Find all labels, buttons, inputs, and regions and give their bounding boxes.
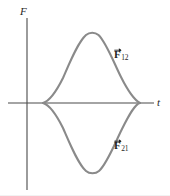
plot-canvas (0, 0, 170, 196)
figure-bottom-edge (0, 195, 170, 196)
vector-arrow-icon (114, 134, 122, 139)
force-vs-time-figure: F t F12 F21 (0, 0, 170, 196)
curve-force-21 (43, 103, 140, 173)
force-label-f12: F12 (114, 49, 128, 60)
curve-force-12 (43, 33, 140, 103)
force-subscript-f12: 12 (121, 53, 128, 62)
force-subscript-f21: 21 (121, 144, 128, 153)
vector-arrow-icon (114, 43, 122, 48)
force-axis-label: F (20, 6, 27, 17)
force-label-f21: F21 (114, 140, 128, 151)
time-axis-label: t (157, 97, 160, 108)
